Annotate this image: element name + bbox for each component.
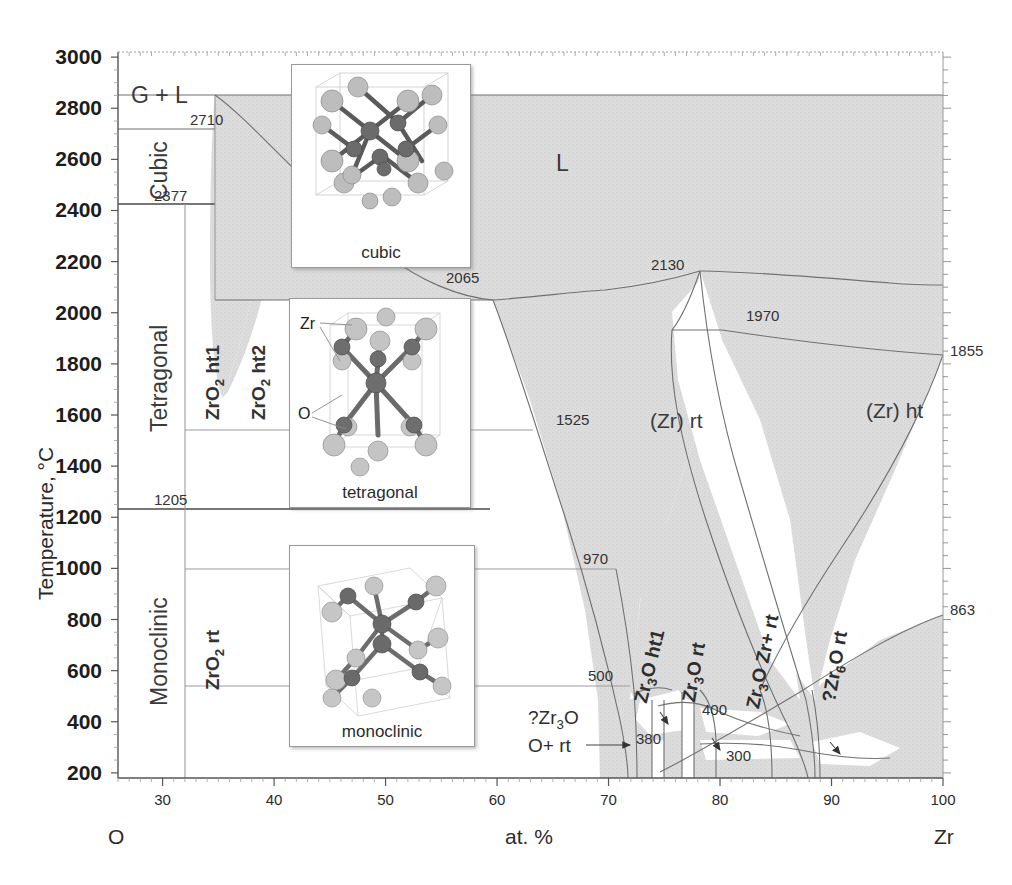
y-tick-label-800: 800 [16,609,102,630]
field-label-zro2-ht1: ZrO2 ht1 [202,345,227,420]
y-axis-title: Temperature, °C [34,447,58,600]
invariant-500: 500 [588,668,613,683]
x-tick-label-90: 90 [809,792,855,807]
y-tick-label-1200: 1200 [16,506,102,527]
field-label-zr-rt: (Zr) rt [650,410,702,431]
field-label-liquid: L [556,152,569,175]
inset-caption-cubic: cubic [292,243,470,263]
invariant-2377: 2377 [154,188,187,203]
field-label-gas-liquid: G + L [131,84,188,107]
x-tick-label-60: 60 [474,792,520,807]
phase-diagram-canvas [0,0,1012,885]
y-tick-label-2800: 2800 [16,97,102,118]
invariant-1205: 1205 [154,492,187,507]
y-tick-label-1600: 1600 [16,404,102,425]
inset-caption-monoclinic: monoclinic [290,722,474,742]
invariant-1855: 1855 [950,343,983,358]
left-endmember-label: O [108,826,124,847]
inset-atom-label-o: O [298,405,310,423]
field-label-zro2-rt: ZrO2 rt [202,630,227,690]
y-tick-label-2400: 2400 [16,199,102,220]
inset-cubic: cubic [291,64,471,268]
y-tick-label-1400: 1400 [16,455,102,476]
field-label-zro2-ht2: ZrO2 ht2 [248,345,273,420]
invariant-863: 863 [950,602,975,617]
field-label-qzr3o-line1: ?Zr3O [528,708,579,731]
field-label-monoclinic: Monoclinic [146,597,173,706]
field-label-qzr3o-line2: O+ rt [528,736,571,755]
invariant-2710: 2710 [190,112,223,127]
y-tick-label-2000: 2000 [16,302,102,323]
x-tick-label-30: 30 [140,792,186,807]
y-tick-label-3000: 3000 [16,46,102,67]
tetragonal-structure-svg [290,299,470,507]
field-label-tetragonal: Tetragonal [146,325,173,432]
cubic-structure-svg [292,65,470,267]
x-tick-label-40: 40 [251,792,297,807]
phase-diagram-figure: 2004006008001000120014001600180020002200… [0,0,1012,885]
invariant-300: 300 [726,748,751,763]
inset-monoclinic: monoclinic [289,545,475,747]
y-tick-label-200: 200 [16,762,102,783]
invariant-1970: 1970 [746,308,779,323]
invariant-400: 400 [702,702,727,717]
inset-caption-tetragonal: tetragonal [290,483,470,503]
invariant-2065: 2065 [446,270,479,285]
x-tick-label-80: 80 [697,792,743,807]
invariant-2130: 2130 [651,257,684,272]
y-tick-label-2600: 2600 [16,148,102,169]
invariant-1525: 1525 [556,412,589,427]
y-tick-label-1000: 1000 [16,557,102,578]
inset-atom-label-zr: Zr [300,315,315,333]
x-tick-label-100: 100 [920,792,966,807]
field-label-zr-ht: (Zr) ht [866,400,923,421]
right-endmember-label: Zr [934,826,954,847]
x-tick-label-70: 70 [586,792,632,807]
y-tick-label-2200: 2200 [16,251,102,272]
invariant-970: 970 [583,551,608,566]
invariant-380: 380 [636,731,661,746]
y-tick-label-600: 600 [16,660,102,681]
y-tick-label-1800: 1800 [16,353,102,374]
x-tick-label-50: 50 [363,792,409,807]
x-axis-title: at. % [505,826,553,847]
y-tick-label-400: 400 [16,711,102,732]
monoclinic-structure-svg [290,546,474,746]
inset-tetragonal: Zr O tetragonal [289,298,471,508]
